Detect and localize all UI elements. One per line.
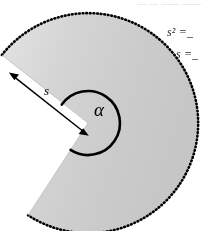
angle-label-alpha: α [94,100,104,119]
formula-s: s = ̲ [176,47,196,62]
radius-label-s: s [44,84,49,97]
formula-s-squared: s² = ̲ [167,25,190,40]
